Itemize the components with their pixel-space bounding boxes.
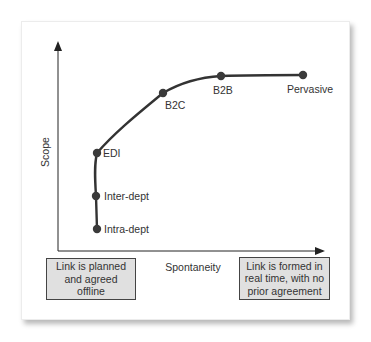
x-axis-label: Spontaneity <box>165 261 220 273</box>
point-intra-dept <box>93 225 101 233</box>
note-right-line3: prior agreement <box>245 285 324 298</box>
note-planned-offline: Link is planned and agreed offline <box>46 258 136 300</box>
note-left-line2: and agreed <box>56 273 126 286</box>
note-left-line3: offline <box>56 285 126 298</box>
point-b2c <box>159 89 167 97</box>
evolution-curve <box>95 75 303 229</box>
y-axis-label: Scope <box>39 137 51 167</box>
label-b2c: B2C <box>165 100 185 111</box>
point-inter-dept <box>92 192 100 200</box>
point-edi <box>93 149 101 157</box>
label-pervasive: Pervasive <box>287 84 333 95</box>
note-right-line1: Link is formed in <box>245 260 324 273</box>
label-inter-dept: Inter-dept <box>104 191 149 202</box>
note-right-line2: real time, with no <box>245 272 324 285</box>
point-pervasive <box>299 71 307 79</box>
point-b2b <box>217 72 225 80</box>
note-real-time: Link is formed in real time, with no pri… <box>239 257 330 300</box>
label-edi: EDI <box>103 148 121 159</box>
note-left-line1: Link is planned <box>56 260 126 273</box>
label-intra-dept: Intra-dept <box>104 224 149 235</box>
label-b2b: B2B <box>213 85 233 96</box>
